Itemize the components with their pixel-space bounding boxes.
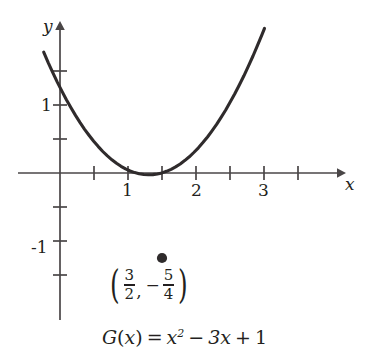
vertex-x-denominator: 2 <box>124 287 136 302</box>
x-tick-label-1: 1 <box>122 182 133 199</box>
caption-arg-open: ( <box>117 326 124 348</box>
y-axis-label: y <box>43 18 53 35</box>
caption-term3: 1 <box>255 326 267 348</box>
figure-container: x y 1 2 3 1 -1 ( 3 2 , − 5 4 ) G(x)=x2−3… <box>0 0 369 358</box>
function-name: G <box>102 326 117 348</box>
x-tick-label-2: 2 <box>191 182 202 199</box>
x-axis <box>18 168 346 178</box>
vertex-y-denominator: 4 <box>163 287 175 302</box>
vertex-point-marker <box>157 253 167 263</box>
parabola-curve <box>44 28 265 174</box>
function-caption: G(x)=x2−3x+1 <box>0 326 369 348</box>
caption-op2: + <box>231 326 255 348</box>
vertex-x-numerator: 3 <box>124 268 136 283</box>
vertex-coordinate-label: ( 3 2 , − 5 4 ) <box>107 268 191 302</box>
caption-term2: 3x <box>208 326 231 348</box>
x-tick-label-3: 3 <box>258 182 269 199</box>
vertex-y-fraction: 5 4 <box>163 268 175 302</box>
y-tick-label-1: 1 <box>41 97 52 114</box>
caption-equals: = <box>143 326 167 348</box>
vertex-x-fraction: 3 2 <box>124 268 136 302</box>
caption-arg-close: ) <box>135 326 142 348</box>
close-paren: ) <box>178 269 188 300</box>
caption-arg: x <box>125 326 136 348</box>
x-axis-label: x <box>345 176 355 193</box>
vertex-y-numerator: 5 <box>163 268 175 283</box>
open-paren: ( <box>110 269 120 300</box>
y-tick-label-minus-1: -1 <box>31 239 48 256</box>
caption-op1: − <box>184 326 208 348</box>
coordinate-comma: , <box>136 281 142 301</box>
caption-term1-base: x <box>167 326 178 348</box>
vertex-y-minus-sign: − <box>143 275 162 295</box>
